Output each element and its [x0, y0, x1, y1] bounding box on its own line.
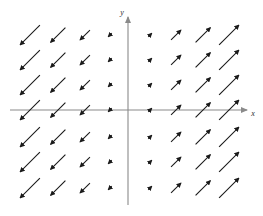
field-arrow: [20, 178, 40, 198]
field-arrow: [20, 75, 40, 95]
field-arrow: [171, 55, 181, 65]
field-arrow: [148, 58, 152, 62]
plot-canvas: x y: [0, 0, 263, 216]
field-arrow: [80, 183, 90, 193]
field-arrow: [148, 135, 152, 139]
field-arrow: [196, 78, 211, 93]
field-arrow: [148, 83, 152, 87]
field-arrow: [51, 53, 66, 68]
vector-arrows-group: [20, 25, 239, 198]
field-arrow: [80, 157, 90, 167]
field-arrow: [51, 130, 66, 145]
axes-group: [10, 17, 247, 205]
field-arrow: [20, 50, 40, 70]
field-arrow: [148, 186, 152, 190]
field-arrow: [108, 83, 112, 87]
field-arrow: [51, 181, 66, 196]
field-arrow: [108, 160, 112, 164]
x-axis-label: x: [250, 109, 255, 118]
field-arrow: [196, 130, 211, 145]
field-arrow: [171, 157, 181, 167]
field-arrow: [51, 155, 66, 170]
field-arrow: [51, 78, 66, 93]
field-arrow: [80, 132, 90, 142]
field-arrow: [219, 152, 239, 172]
field-arrow: [219, 127, 239, 147]
field-arrow: [80, 30, 90, 40]
field-arrow: [80, 55, 90, 65]
field-arrow: [219, 75, 239, 95]
field-arrow: [108, 58, 112, 62]
field-arrow: [80, 80, 90, 90]
field-arrow: [219, 178, 239, 198]
field-arrow: [196, 181, 211, 196]
field-arrow: [51, 28, 66, 43]
direction-field-figure: x y: [0, 0, 263, 216]
field-arrow: [20, 152, 40, 172]
field-arrow: [171, 183, 181, 193]
field-arrow: [108, 186, 112, 190]
field-arrow: [108, 33, 112, 37]
field-arrow: [171, 80, 181, 90]
field-arrow: [148, 160, 152, 164]
field-arrow: [219, 50, 239, 70]
field-arrow: [196, 28, 211, 43]
field-arrow: [196, 155, 211, 170]
field-arrow: [108, 135, 112, 139]
field-arrow: [196, 53, 211, 68]
y-axis-label: y: [119, 8, 124, 17]
field-arrow: [219, 25, 239, 45]
field-arrow: [20, 25, 40, 45]
field-arrow: [171, 30, 181, 40]
field-arrow: [148, 33, 152, 37]
field-arrow: [20, 127, 40, 147]
field-arrow: [171, 132, 181, 142]
